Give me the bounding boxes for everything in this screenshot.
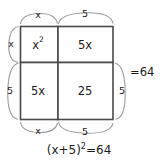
dim-label-bottom-right: 5 <box>82 126 88 137</box>
dim-label-bottom-left: x <box>35 125 41 136</box>
dim-label-right-bottom: 5 <box>119 85 125 96</box>
dim-label-left-bottom: 5 <box>7 85 13 96</box>
cell-top-left <box>21 27 59 63</box>
cell-label-bottom-left: 5x <box>31 84 45 98</box>
dim-label-top-left: x <box>35 9 41 20</box>
dim-label-top-right: 5 <box>82 8 88 19</box>
diagram-canvas: x2 5x 5x 25 x 5 x 5 x 5 5 =64 (x+5)2=64 <box>0 0 160 166</box>
cell-label-top-right: 5x <box>78 38 92 52</box>
dim-label-left-top: x <box>8 38 14 49</box>
caption-equation: (x+5)2=64 <box>47 141 112 157</box>
cell-label-bottom-right: 25 <box>78 84 93 98</box>
area-model-diagram: x2 5x 5x 25 x 5 x 5 x 5 5 =64 (x+5)2=64 <box>0 0 160 166</box>
result-label: =64 <box>130 65 154 79</box>
